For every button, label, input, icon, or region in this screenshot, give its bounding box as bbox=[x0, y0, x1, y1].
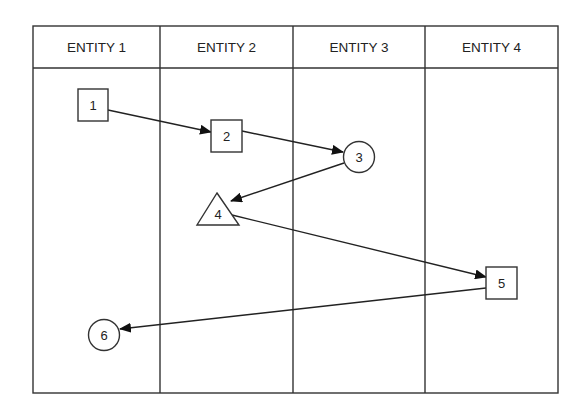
node-label: 1 bbox=[89, 98, 96, 113]
node-label: 5 bbox=[498, 276, 505, 291]
edge-3-to-4 bbox=[231, 163, 344, 201]
node-1[interactable]: 1 bbox=[78, 89, 108, 121]
lane-header-entity-4: ENTITY 4 bbox=[462, 40, 522, 55]
swimlane-diagram: ENTITY 1 ENTITY 2 ENTITY 3 ENTITY 4 1 2 … bbox=[0, 0, 583, 408]
node-6[interactable]: 6 bbox=[89, 320, 120, 351]
lane-header-entity-1: ENTITY 1 bbox=[67, 40, 126, 55]
lane-header-entity-2: ENTITY 2 bbox=[197, 40, 256, 55]
edge-4-to-5 bbox=[232, 215, 486, 277]
node-label: 4 bbox=[214, 207, 221, 222]
node-3[interactable]: 3 bbox=[344, 142, 375, 173]
edge-5-to-6 bbox=[120, 288, 486, 329]
lane-header-entity-3: ENTITY 3 bbox=[329, 40, 388, 55]
node-4[interactable]: 4 bbox=[197, 193, 239, 225]
node-5[interactable]: 5 bbox=[486, 267, 517, 299]
node-label: 3 bbox=[355, 150, 362, 165]
node-label: 6 bbox=[100, 328, 107, 343]
node-2[interactable]: 2 bbox=[211, 120, 242, 152]
edges bbox=[108, 110, 486, 329]
node-label: 2 bbox=[223, 129, 230, 144]
lane-headers: ENTITY 1 ENTITY 2 ENTITY 3 ENTITY 4 bbox=[67, 40, 522, 55]
